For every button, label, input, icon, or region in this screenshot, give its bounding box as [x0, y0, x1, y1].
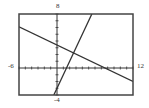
line-1-increasing [54, 14, 92, 95]
line-2-decreasing [19, 27, 133, 82]
ymax-label: 8 [56, 3, 60, 10]
ymin-label: -4 [54, 97, 60, 104]
xmax-label: 12 [137, 63, 144, 70]
graph-window [0, 0, 149, 108]
xmin-label: -6 [8, 63, 14, 70]
